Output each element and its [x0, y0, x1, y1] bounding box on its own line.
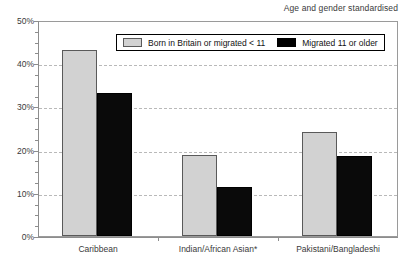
bar: [182, 155, 217, 236]
y-tick-minor: [35, 215, 38, 216]
y-axis-label: 10%: [17, 189, 34, 199]
x-axis-label: Pakistani/Bangladeshi: [296, 244, 380, 254]
y-tick-major: [34, 64, 38, 65]
plot-inner: [39, 22, 397, 236]
y-tick-major: [34, 151, 38, 152]
y-tick-major: [34, 21, 38, 22]
y-tick-minor: [35, 140, 38, 141]
legend-item: Migrated 11 or older: [277, 38, 377, 48]
y-axis-line: [38, 21, 39, 237]
x-axis-label: Caribbean: [78, 244, 117, 254]
y-tick-major: [34, 107, 38, 108]
y-tick-minor: [35, 161, 38, 162]
bar: [337, 156, 372, 236]
bar: [302, 132, 337, 236]
chart-legend: Born in Britain or migrated < 11 Migrate…: [116, 34, 385, 51]
y-tick-major: [34, 237, 38, 238]
x-tick: [158, 237, 159, 241]
y-axis-label: 20%: [17, 146, 34, 156]
y-tick-minor: [35, 118, 38, 119]
y-axis-label: 50%: [17, 16, 34, 26]
bar: [97, 93, 132, 236]
y-tick-minor: [35, 53, 38, 54]
y-tick-minor: [35, 97, 38, 98]
y-axis-label: 40%: [17, 59, 34, 69]
y-axis-label: 30%: [17, 102, 34, 112]
y-tick-minor: [35, 32, 38, 33]
y-tick-minor: [35, 43, 38, 44]
y-tick-minor: [35, 183, 38, 184]
legend-label: Born in Britain or migrated < 11: [148, 38, 265, 48]
legend-item: Born in Britain or migrated < 11: [123, 38, 265, 48]
y-tick-minor: [35, 172, 38, 173]
y-tick-minor: [35, 226, 38, 227]
y-tick-major: [34, 194, 38, 195]
bar-chart: Age and gender standardised 0%10%20%30%4…: [0, 0, 415, 264]
bar: [217, 187, 252, 236]
x-axis-label: Indian/African Asian*: [179, 244, 257, 254]
legend-label: Migrated 11 or older: [302, 38, 377, 48]
y-tick-minor: [35, 75, 38, 76]
bar: [62, 50, 97, 236]
legend-swatch-light-icon: [123, 38, 142, 47]
plot-area: [38, 21, 398, 237]
y-tick-minor: [35, 86, 38, 87]
legend-swatch-dark-icon: [277, 38, 296, 47]
x-axis-line: [38, 237, 398, 238]
y-tick-minor: [35, 205, 38, 206]
y-axis-label: 0%: [22, 232, 34, 242]
chart-caption: Age and gender standardised: [284, 3, 398, 13]
y-tick-minor: [35, 129, 38, 130]
x-tick: [278, 237, 279, 241]
